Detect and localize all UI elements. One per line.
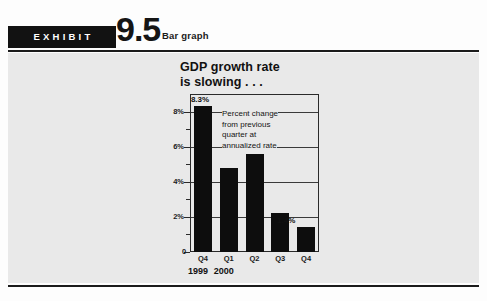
header-divider [8, 50, 479, 52]
x-axis-group-labels: 19992000 [182, 266, 332, 280]
exhibit-tag: EXHIBIT [8, 26, 116, 48]
exhibit-kind-label: Bar graph [162, 30, 209, 41]
bar-value-label: 1.4% [277, 216, 295, 225]
bar [297, 227, 315, 252]
chart-annotation-text: Percent change from previous quarter at … [222, 109, 278, 149]
footer-divider [8, 285, 479, 287]
y-axis-labels: 2%4%6%8% [158, 88, 184, 263]
bar [194, 106, 212, 252]
x-axis-tick-label: Q3 [267, 254, 293, 263]
x-axis-tick-label: Q2 [242, 254, 268, 263]
x-axis-group-label: 2000 [214, 266, 234, 277]
exhibit-tag-label: EXHIBIT [8, 26, 116, 48]
x-axis-tick-label: Q4 [190, 254, 216, 263]
chart-annotation: Percent change from previous quarter at … [222, 99, 314, 151]
x-axis-tick-label: Q1 [216, 254, 242, 263]
chart-title: GDP growth rate is slowing . . . [180, 60, 280, 89]
x-axis-tick-label: Q4 [293, 254, 319, 263]
bar [220, 168, 238, 252]
bar [246, 154, 264, 252]
x-axis-labels: Q4Q1Q2Q3Q4 [190, 254, 319, 266]
exhibit-header: EXHIBIT 9.5 Bar graph [0, 26, 487, 48]
exhibit-number: 9.5 [116, 12, 160, 46]
x-axis-group-label: 1999 [188, 266, 208, 277]
exhibit-page: EXHIBIT 9.5 Bar graph GDP growth rate is… [0, 0, 487, 301]
y-axis-zero-label: 0 [182, 247, 186, 256]
bar-value-label: 8.3% [191, 95, 209, 104]
